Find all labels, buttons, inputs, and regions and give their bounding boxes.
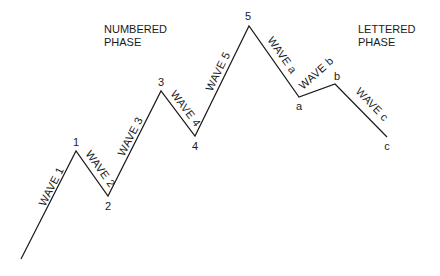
point-label-5: 5 [245,10,251,22]
lettered-phase-title-line2: PHASE [358,36,395,48]
point-label-1: 1 [73,136,79,148]
numbered-phase-title-line1: NUMBERED [104,23,167,35]
wave-label-a: WAVE a [265,34,299,76]
wave-label-5: WAVE 5 [203,50,232,93]
point-label-b: b [334,70,340,82]
wave-label-1: WAVE 1 [36,165,66,208]
numbered-phase-title-line2: PHASE [104,36,141,48]
diagram-svg: NUMBERED PHASE LETTERED PHASE 1 2 3 4 5 … [0,0,440,276]
wave-label-c: WAVE c [354,85,392,123]
point-label-4: 4 [192,140,198,152]
point-label-a: a [296,100,303,112]
elliott-wave-diagram: NUMBERED PHASE LETTERED PHASE 1 2 3 4 5 … [0,0,440,276]
point-label-2: 2 [105,200,111,212]
point-label-c: c [384,140,390,152]
lettered-phase-title-line1: LETTERED [358,23,416,35]
point-label-3: 3 [158,76,164,88]
